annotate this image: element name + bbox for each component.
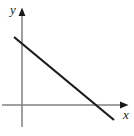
x-axis-label: x xyxy=(123,108,129,121)
figure-canvas: y x xyxy=(0,0,134,136)
y-axis-arrowhead xyxy=(19,8,26,17)
y-axis-label: y xyxy=(10,3,16,16)
plotted-line-series xyxy=(14,37,114,120)
plot-svg xyxy=(0,0,134,136)
